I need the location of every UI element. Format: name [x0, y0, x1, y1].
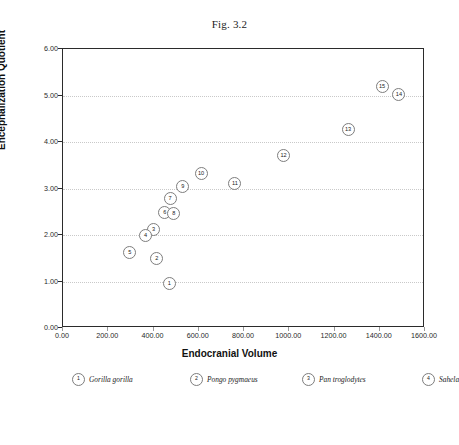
gridline-y-2 — [63, 235, 423, 236]
gridline-y-1 — [63, 282, 423, 283]
data-point-15[interactable]: 15 — [376, 80, 389, 93]
data-point-10[interactable]: 10 — [195, 167, 208, 180]
legend-badge-4: 4 — [422, 373, 435, 386]
figure-title: Fig. 3.2 — [0, 18, 459, 30]
legend-item-1[interactable]: 1Gorilla gorilla — [72, 372, 190, 387]
gridline-y-4 — [63, 142, 423, 143]
data-point-9[interactable]: 9 — [176, 180, 189, 193]
data-point-12[interactable]: 12 — [277, 149, 290, 162]
legend-item-2[interactable]: 2Pongo pygmaeus — [190, 372, 302, 387]
y-axis-title: Encephalization Quotient — [0, 30, 7, 150]
y-tick-label-1.00: 1.00 — [24, 277, 58, 286]
y-tick-label-3.00: 3.00 — [24, 184, 58, 193]
legend-badge-3: 3 — [302, 373, 315, 386]
x-tick-mark-200.00 — [107, 327, 108, 331]
data-point-1[interactable]: 1 — [163, 277, 176, 290]
legend-label-1: Gorilla gorilla — [89, 375, 133, 384]
x-tick-mark-400.00 — [153, 327, 154, 331]
x-axis-title: Endocranial Volume — [0, 348, 459, 359]
legend-label-4: Sahelanthropus tchadensis — [439, 375, 459, 384]
legend-label-3: Pan troglodytes — [319, 375, 366, 384]
x-tick-mark-1400.00 — [379, 327, 380, 331]
legend-badge-2: 2 — [190, 373, 203, 386]
data-point-7[interactable]: 7 — [164, 192, 177, 205]
legend-item-4[interactable]: 4Sahelanthropus tchadensis — [422, 372, 459, 387]
x-tick-mark-1600.00 — [424, 327, 425, 331]
data-point-13[interactable]: 13 — [342, 123, 355, 136]
legend-badge-1: 1 — [72, 373, 85, 386]
data-point-4[interactable]: 4 — [139, 229, 152, 242]
x-tick-mark-0.00 — [62, 327, 63, 331]
y-tick-label-5.00: 5.00 — [24, 91, 58, 100]
legend: 1Gorilla gorilla2Pongo pygmaeus3Pan trog… — [72, 372, 452, 387]
gridline-y-3 — [63, 189, 423, 190]
legend-label-2: Pongo pygmaeus — [207, 375, 258, 384]
x-tick-mark-800.00 — [243, 327, 244, 331]
gridline-y-5 — [63, 96, 423, 97]
y-tick-label-4.00: 4.00 — [24, 137, 58, 146]
x-tick-mark-600.00 — [198, 327, 199, 331]
data-point-14[interactable]: 14 — [392, 88, 405, 101]
data-point-8[interactable]: 8 — [167, 207, 180, 220]
data-point-2[interactable]: 2 — [150, 252, 163, 265]
x-tick-mark-1000.00 — [288, 327, 289, 331]
plot-area: 123456789101112131415 — [62, 48, 424, 327]
x-tick-mark-1200.00 — [334, 327, 335, 331]
y-tick-label-2.00: 2.00 — [24, 230, 58, 239]
x-tick-label-1600.00: 1600.00 — [394, 331, 454, 340]
data-point-5[interactable]: 5 — [123, 246, 136, 259]
y-tick-label-6.00: 6.00 — [24, 44, 58, 53]
legend-item-3[interactable]: 3Pan troglodytes — [302, 372, 422, 387]
